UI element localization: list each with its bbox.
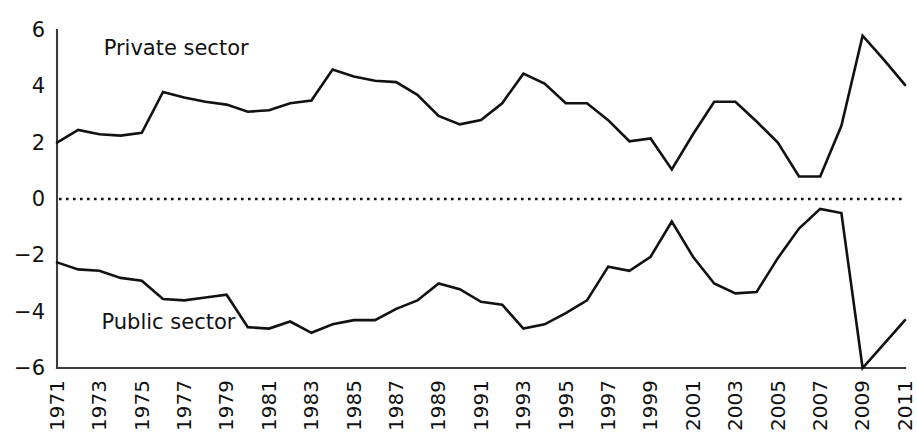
series-annotation-group: Private sectorPublic sector (102, 36, 249, 333)
x-tick-label: 1973 (87, 380, 111, 431)
chart-container: 6420−2−4−6 19711973197519771979198119831… (0, 0, 917, 447)
x-tick-label: 1975 (130, 380, 154, 431)
x-tick-label-group: 1971197319751977197919811983198519871989… (45, 380, 917, 431)
y-tick-label-group: 6420−2−4−6 (14, 18, 45, 380)
x-tick-label: 1999 (638, 380, 662, 431)
x-tick-label: 1977 (172, 380, 196, 431)
y-tick-label: −6 (14, 356, 45, 380)
x-tick-label: 1979 (214, 380, 238, 431)
x-tick-label: 1997 (596, 380, 620, 431)
series-annotation-public-sector: Public sector (102, 310, 236, 334)
y-tick-label: 2 (32, 131, 45, 155)
x-tick-label: 1991 (469, 380, 493, 431)
x-tick-label: 1983 (299, 380, 323, 431)
x-tick-label: 1993 (511, 380, 535, 431)
x-tick-label: 2003 (723, 380, 747, 431)
y-tick-label: 0 (32, 187, 45, 211)
line-chart: 6420−2−4−6 19711973197519771979198119831… (0, 0, 917, 447)
y-axis-group: 6420−2−4−6 (14, 18, 57, 380)
x-tick-label: 1985 (342, 380, 366, 431)
x-tick-label: 2007 (808, 380, 832, 431)
x-tick-label: 2005 (766, 380, 790, 431)
y-tick-label: 4 (32, 74, 45, 98)
x-tick-label: 1987 (384, 380, 408, 431)
x-tick-label: 1995 (554, 380, 578, 431)
y-tick-label: 6 (32, 18, 45, 42)
x-tick-label: 1981 (257, 380, 281, 431)
series-line-public-sector (57, 209, 905, 368)
x-tick-label: 2001 (681, 380, 705, 431)
y-tick-label: −2 (14, 243, 45, 267)
series-annotation-private-sector: Private sector (104, 36, 249, 60)
y-tick-label: −4 (14, 300, 45, 324)
x-tick-label: 2009 (850, 380, 874, 431)
x-tick-label: 1971 (45, 380, 69, 431)
x-tick-label: 2011 (893, 380, 917, 431)
x-tick-label: 1989 (426, 380, 450, 431)
x-axis-group: 1971197319751977197919811983198519871989… (45, 368, 917, 431)
